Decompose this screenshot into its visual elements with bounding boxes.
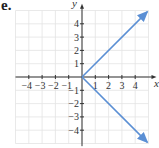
y-tick-label: 3	[74, 32, 79, 43]
x-tick-label: 3	[119, 80, 124, 91]
y-tick-label: 1	[74, 58, 79, 69]
y-tick-label: 2	[74, 45, 79, 56]
x-tick-label: −2	[48, 80, 59, 91]
y-tick-label: −4	[68, 125, 79, 136]
x-tick-label: 4	[133, 80, 138, 91]
x-tick-label: −3	[35, 80, 46, 91]
y-axis-label: y	[71, 0, 77, 9]
coordinate-plot: −4−3−2−11234−4−3−2−11234xy	[0, 0, 159, 148]
x-tick-label: 2	[106, 80, 111, 91]
y-tick-label: −2	[68, 98, 79, 109]
x-axis-label: x	[153, 77, 159, 89]
y-tick-label: −3	[68, 111, 79, 122]
y-tick-label: −1	[68, 85, 79, 96]
x-tick-label: −4	[21, 80, 32, 91]
y-axis-arrow-icon	[80, 4, 84, 9]
y-tick-label: 4	[74, 18, 79, 29]
graph-ray	[82, 12, 147, 77]
